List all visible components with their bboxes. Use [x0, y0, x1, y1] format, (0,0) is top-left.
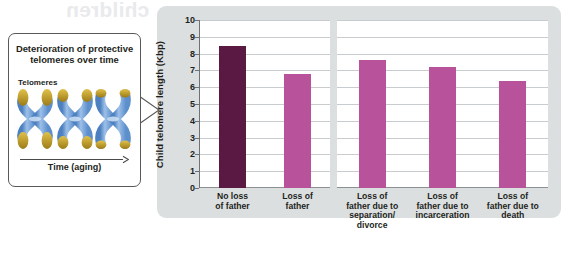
- y-axis-tick-label: 2: [190, 150, 195, 159]
- bar-fill: [284, 74, 311, 188]
- y-axis-tick: [195, 171, 199, 172]
- plot-area: [200, 20, 548, 188]
- gridline: [200, 37, 548, 38]
- y-axis-tick: [195, 87, 199, 88]
- chromosome-young-icon: [16, 88, 54, 150]
- page-bleed-through-text: children: [66, 0, 149, 22]
- y-axis-tick: [195, 154, 199, 155]
- y-axis-tick-label: 1: [190, 167, 195, 176]
- y-axis-tick: [195, 54, 199, 55]
- y-axis-tick: [195, 188, 199, 189]
- y-axis: 012345678910: [199, 20, 200, 188]
- gridline: [200, 20, 548, 21]
- bar: [429, 67, 456, 188]
- y-axis-tick: [195, 104, 199, 105]
- callout-pointer-icon: [138, 95, 160, 125]
- telomeres-label: Telomeres: [18, 78, 57, 87]
- group-divider: [330, 20, 337, 188]
- bar: [499, 81, 526, 188]
- bar-fill: [359, 60, 386, 188]
- y-axis-tick-label: 3: [190, 133, 195, 142]
- y-axis-tick-label: 4: [190, 116, 195, 125]
- y-axis-tick-label: 9: [190, 32, 195, 41]
- callout-box: Deterioration of protective telomeres ov…: [8, 33, 141, 187]
- bar-fill: [499, 81, 526, 188]
- y-axis-tick: [195, 20, 199, 21]
- y-axis-tick-label: 6: [190, 83, 195, 92]
- y-axis-tick-label: 10: [185, 16, 195, 25]
- y-axis-tick: [195, 121, 199, 122]
- x-axis-label-line: father: [256, 202, 340, 212]
- y-axis-tick-label: 7: [190, 66, 195, 75]
- y-axis-tick: [195, 37, 199, 38]
- bar: [219, 46, 246, 188]
- time-axis-label: Time (aging): [9, 162, 140, 172]
- callout-title: Deterioration of protective telomeres ov…: [15, 43, 134, 66]
- chromosome-old-icon: [94, 88, 132, 150]
- y-axis-tick-label: 5: [190, 100, 195, 109]
- x-axis-category-label: Loss offather due todeath: [471, 192, 555, 221]
- chart-panel: Child telomere length (Kbp) 012345678910…: [157, 6, 561, 218]
- x-axis-label-line: death: [471, 211, 555, 221]
- y-axis-tick-label: 8: [190, 49, 195, 58]
- y-axis-tick: [195, 70, 199, 71]
- chromosome-diagram: [16, 88, 133, 150]
- x-axis-category-labels: No lossof fatherLoss offatherLoss offath…: [200, 192, 548, 248]
- bar-fill: [219, 46, 246, 188]
- gridline: [200, 54, 548, 55]
- y-axis-tick: [195, 138, 199, 139]
- bar-fill: [429, 67, 456, 188]
- bar: [359, 60, 386, 188]
- chromosome-middle-icon: [56, 88, 94, 150]
- bar: [284, 74, 311, 188]
- x-axis-category-label: Loss offather: [256, 192, 340, 211]
- x-axis-label-line: divorce: [330, 221, 414, 231]
